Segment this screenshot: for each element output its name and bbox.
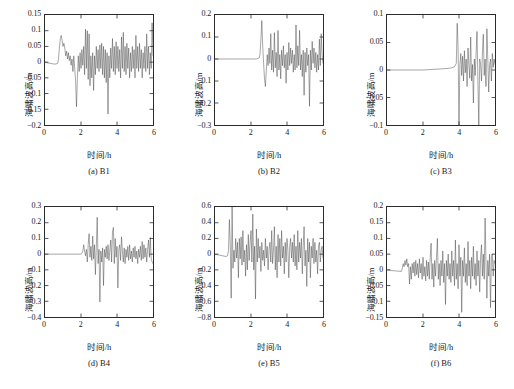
x-tick-labels: 0246 [386, 321, 496, 333]
x-tick-labels: 0246 [386, 129, 496, 141]
y-tick-labels: 0.10.050−0.05−0.1 [343, 14, 383, 126]
panel-caption: (e) B5 [214, 358, 324, 368]
x-tick-label: 0 [384, 321, 388, 329]
plot-frame [44, 14, 154, 126]
panel-b1: 海啸波高/m 0.150.10.050−0.05−0.1−0.15−0.2 02… [0, 0, 170, 190]
x-tick-label: 2 [79, 129, 83, 137]
y-tick-label: −0.2 [27, 282, 41, 290]
y-tick-label: −0.3 [197, 122, 211, 130]
y-tick-label: 0 [207, 250, 211, 258]
x-tick-label: 4 [115, 321, 119, 329]
plot-frame [386, 14, 496, 126]
x-tick-label: 0 [42, 129, 46, 137]
plot-area-b3: 0.10.050−0.05−0.1 0246 [386, 14, 496, 126]
plot-frame [386, 206, 496, 318]
x-axis-title: 时间/h [44, 148, 154, 160]
y-tick-label: 0.15 [370, 218, 383, 226]
y-tick-label: 0 [379, 66, 383, 74]
x-tick-label: 6 [494, 129, 498, 137]
x-tick-label: 4 [115, 129, 119, 137]
y-tick-label: 0.6 [202, 202, 211, 210]
y-tick-label: −0.3 [27, 298, 41, 306]
y-tick-label: 0.15 [28, 10, 41, 18]
plot-area-b5: 0.60.40.20−0.2−0.4−0.6−0.8 0246 [214, 206, 324, 318]
y-tick-label: 0.2 [202, 234, 211, 242]
panel-b4: 海啸波高/m 0.30.20.10−0.1−0.2−0.3−0.4 0246 时… [0, 190, 170, 389]
panel-caption: (c) B3 [386, 166, 496, 176]
panel-b3: 海啸波高/m 0.10.050−0.05−0.1 0246 时间/h (c) B… [340, 0, 514, 190]
y-tick-label: 0.3 [32, 202, 41, 210]
y-tick-label: 0 [379, 266, 383, 274]
y-tick-label: 0 [37, 58, 41, 66]
y-tick-label: 0.2 [374, 202, 383, 210]
y-tick-label: 0.1 [202, 32, 211, 40]
y-tick-label: 0.4 [202, 218, 211, 226]
y-tick-label: 0.1 [374, 10, 383, 18]
y-tick-label: 0.2 [202, 10, 211, 18]
plot-area-b2: 0.20.10−0.1−0.2−0.3 0246 [214, 14, 324, 126]
plot-frame [214, 14, 324, 126]
panel-b6: 海啸波高/m 0.20.150.10.050−0.05−0.1−0.15 024… [340, 190, 514, 389]
data-series-line [215, 21, 323, 107]
y-tick-label: −0.1 [369, 122, 383, 130]
x-tick-labels: 0246 [214, 129, 324, 141]
y-tick-label: −0.8 [197, 314, 211, 322]
y-tick-label: −0.2 [197, 266, 211, 274]
x-axis-title: 时间/h [214, 148, 324, 160]
y-tick-label: −0.05 [365, 282, 383, 290]
panel-caption: (b) B2 [214, 166, 324, 176]
y-tick-labels: 0.60.40.20−0.2−0.4−0.6−0.8 [171, 206, 211, 318]
x-tick-label: 2 [79, 321, 83, 329]
x-tick-label: 2 [421, 129, 425, 137]
y-tick-label: 0.1 [374, 234, 383, 242]
x-tick-label: 2 [249, 129, 253, 137]
plot-frame [44, 206, 154, 318]
x-tick-label: 0 [212, 321, 216, 329]
x-tick-label: 6 [494, 321, 498, 329]
data-series-line [215, 207, 323, 299]
x-tick-label: 4 [285, 321, 289, 329]
x-tick-label: 6 [322, 129, 326, 137]
panel-b2: 海啸波高/m 0.20.10−0.1−0.2−0.3 0246 时间/h (b)… [170, 0, 340, 190]
series-canvas [45, 207, 153, 317]
series-canvas [45, 15, 153, 125]
x-axis-title: 时间/h [386, 340, 496, 352]
y-tick-label: −0.4 [27, 314, 41, 322]
data-series-line [45, 23, 153, 114]
x-tick-label: 6 [152, 129, 156, 137]
y-tick-labels: 0.20.10−0.1−0.2−0.3 [171, 14, 211, 126]
x-axis-title: 时间/h [214, 340, 324, 352]
x-tick-label: 4 [285, 129, 289, 137]
x-tick-labels: 0246 [44, 129, 154, 141]
y-tick-labels: 0.20.150.10.050−0.05−0.1−0.15 [343, 206, 383, 318]
x-tick-label: 6 [152, 321, 156, 329]
y-tick-label: 0 [207, 55, 211, 63]
y-tick-label: −0.1 [369, 298, 383, 306]
y-tick-label: 0 [37, 250, 41, 258]
x-tick-label: 0 [384, 129, 388, 137]
y-tick-label: −0.05 [23, 74, 41, 82]
plot-area-b1: 0.150.10.050−0.05−0.1−0.15−0.2 0246 [44, 14, 154, 126]
series-canvas [215, 15, 323, 125]
x-tick-label: 2 [249, 321, 253, 329]
x-tick-label: 0 [212, 129, 216, 137]
y-tick-label: 0.1 [32, 26, 41, 34]
y-tick-label: −0.05 [365, 94, 383, 102]
panel-caption: (a) B1 [44, 166, 154, 176]
y-tick-label: 0.05 [28, 42, 41, 50]
y-tick-label: −0.6 [197, 298, 211, 306]
y-tick-labels: 0.150.10.050−0.05−0.1−0.15−0.2 [1, 14, 41, 126]
data-series-line [45, 217, 153, 302]
y-tick-label: −0.1 [27, 90, 41, 98]
y-tick-label: −0.2 [27, 122, 41, 130]
y-tick-label: 0.05 [370, 38, 383, 46]
panel-caption: (f) B6 [386, 358, 496, 368]
y-tick-label: −0.1 [27, 266, 41, 274]
series-canvas [387, 15, 495, 125]
y-tick-label: −0.15 [365, 314, 383, 322]
y-tick-label: 0.05 [370, 250, 383, 258]
plot-area-b6: 0.20.150.10.050−0.05−0.1−0.15 0246 [386, 206, 496, 318]
x-tick-label: 4 [457, 129, 461, 137]
y-tick-label: −0.2 [197, 100, 211, 108]
x-axis-title: 时间/h [44, 340, 154, 352]
